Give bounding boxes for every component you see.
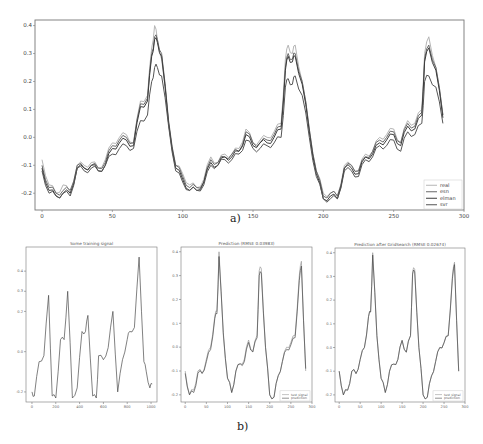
x-tick-label: 100 bbox=[224, 405, 232, 409]
x-tick-label: 300 bbox=[462, 405, 470, 409]
y-tick-label: 0.0 bbox=[172, 345, 178, 349]
legend-label: esn bbox=[440, 188, 449, 194]
series-line-test-signal bbox=[339, 253, 459, 399]
x-tick-label: 50 bbox=[109, 213, 116, 219]
series-line-elman bbox=[42, 38, 443, 201]
chart-panel-prediction: -0.2-0.10.00.10.20.30.405010015020025030… bbox=[171, 241, 316, 409]
plot-frame bbox=[181, 247, 312, 402]
x-tick-label: 0 bbox=[31, 405, 34, 409]
y-tick-label: -0.2 bbox=[21, 190, 32, 196]
x-tick-label: 200 bbox=[266, 405, 274, 409]
chart-panel-training-signal: -0.20.00.20.30.402004006008001000Some tr… bbox=[16, 241, 157, 409]
x-tick-label: 150 bbox=[248, 213, 259, 219]
x-tick-label: 1000 bbox=[146, 405, 156, 409]
y-tick-label: 0.2 bbox=[172, 298, 178, 302]
plot-frame bbox=[35, 20, 464, 210]
y-tick-label: 0.2 bbox=[326, 298, 332, 302]
x-tick-label: 50 bbox=[358, 405, 363, 409]
legend-label: elman bbox=[440, 195, 456, 201]
y-tick-label: 0.1 bbox=[23, 106, 32, 112]
caption-a: a) bbox=[230, 212, 241, 225]
y-tick-label: 0.4 bbox=[326, 251, 332, 255]
series-line-svr bbox=[42, 64, 443, 202]
x-tick-label: 150 bbox=[245, 405, 253, 409]
panel-title: Prediction after GridSearch (RMSE 0.0267… bbox=[354, 242, 446, 247]
y-tick-label: 0.4 bbox=[23, 22, 32, 28]
y-tick-label: 0.3 bbox=[23, 50, 32, 56]
y-tick-label: 0.2 bbox=[23, 78, 32, 84]
x-tick-label: 150 bbox=[399, 405, 407, 409]
y-tick-label: 0.4 bbox=[172, 250, 178, 254]
y-tick-label: 0.1 bbox=[172, 322, 178, 326]
plot-frame bbox=[335, 248, 465, 402]
y-tick-label: -0.2 bbox=[16, 390, 23, 394]
series-line-training-signal bbox=[32, 257, 152, 398]
chart-panel-a: -0.2-0.10.00.10.20.30.405010015020025030… bbox=[21, 20, 469, 219]
y-tick-label: 0.3 bbox=[172, 274, 178, 278]
y-tick-label: -0.1 bbox=[325, 369, 332, 373]
series-line-prediction bbox=[185, 257, 306, 399]
x-tick-label: 600 bbox=[100, 405, 108, 409]
y-tick-label: 0.0 bbox=[23, 134, 32, 140]
x-tick-label: 300 bbox=[459, 213, 470, 219]
x-tick-label: 200 bbox=[52, 405, 60, 409]
legend-label: real bbox=[440, 182, 449, 188]
series-line-prediction bbox=[339, 255, 459, 399]
y-tick-label: -0.1 bbox=[171, 369, 178, 373]
x-tick-label: 0 bbox=[184, 405, 187, 409]
x-tick-label: 0 bbox=[338, 405, 341, 409]
series-line-esn bbox=[42, 35, 443, 198]
x-tick-label: 200 bbox=[420, 405, 428, 409]
chart-panel-prediction-gridsearch: -0.2-0.10.00.10.20.30.405010015020025030… bbox=[325, 242, 469, 409]
x-tick-label: 250 bbox=[287, 405, 295, 409]
y-tick-label: 0.0 bbox=[17, 350, 23, 354]
x-tick-label: 800 bbox=[124, 405, 132, 409]
legend-label: prediction bbox=[291, 396, 307, 400]
panel-title: Some training signal bbox=[70, 241, 113, 246]
figure-canvas: -0.2-0.10.00.10.20.30.405010015020025030… bbox=[0, 0, 483, 444]
series-line-test-signal bbox=[185, 252, 306, 399]
x-tick-label: 50 bbox=[204, 405, 209, 409]
legend-label: svr bbox=[440, 201, 449, 207]
y-tick-label: 0.2 bbox=[17, 310, 23, 314]
panel-title: Prediction (RMSE 0.03983) bbox=[219, 241, 275, 246]
y-tick-label: 0.0 bbox=[326, 346, 332, 350]
y-tick-label: 0.3 bbox=[326, 275, 332, 279]
y-tick-label: -0.1 bbox=[21, 162, 32, 168]
y-tick-label: 0.4 bbox=[17, 269, 23, 273]
x-tick-label: 100 bbox=[177, 213, 188, 219]
y-tick-label: -0.2 bbox=[325, 393, 332, 397]
y-tick-label: 0.1 bbox=[326, 322, 332, 326]
x-tick-label: 100 bbox=[378, 405, 386, 409]
x-tick-label: 250 bbox=[441, 405, 449, 409]
y-tick-label: -0.2 bbox=[171, 393, 178, 397]
x-tick-label: 400 bbox=[76, 405, 84, 409]
legend-label: prediction bbox=[444, 396, 460, 400]
x-tick-label: 200 bbox=[318, 213, 329, 219]
x-tick-label: 250 bbox=[388, 213, 399, 219]
y-tick-label: 0.3 bbox=[17, 289, 23, 293]
x-tick-label: 300 bbox=[309, 405, 317, 409]
caption-b: b) bbox=[237, 420, 248, 433]
x-tick-label: 0 bbox=[40, 213, 44, 219]
